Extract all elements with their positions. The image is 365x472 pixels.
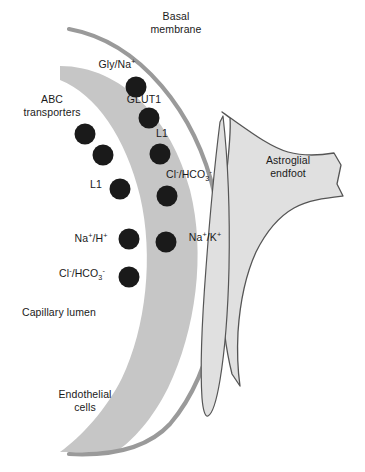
label-abc-transporters: ABC transporters — [6, 93, 98, 118]
na-k-text: Na+/K+ — [189, 231, 221, 243]
transporter-dot-l1-upper — [150, 144, 171, 165]
label-cl-hco3-upper: Cl-/HCO3- — [146, 168, 232, 181]
label-astroglial-endfoot: Astroglial endfoot — [250, 154, 326, 179]
transporter-dot-cl-hco3-lower — [119, 267, 140, 288]
label-na-k: Na+/K+ — [172, 231, 238, 244]
basal-membrane-line1: Basal — [163, 10, 190, 22]
label-capillary-lumen: Capillary lumen — [22, 306, 132, 319]
na-h-text: Na+/H+ — [75, 232, 108, 244]
label-l1-lower: L1 — [72, 178, 120, 191]
endothelial-line2: cells — [74, 401, 96, 413]
label-na-h: Na+/H+ — [62, 232, 120, 245]
basal-membrane-line2: membrane — [151, 23, 202, 35]
label-glut1: GLUT1 — [104, 93, 184, 106]
transporter-dot-glut1 — [139, 108, 160, 129]
glut1-text: GLUT1 — [127, 93, 161, 105]
astroglial-line2: endfoot — [270, 167, 306, 179]
transporter-dot-na-h — [119, 229, 140, 250]
label-endothelial-cells: Endothelial cells — [42, 388, 128, 413]
abc-line1: ABC — [41, 93, 63, 105]
l1-upper-text: L1 — [156, 127, 168, 139]
blood-brain-barrier-diagram: Basal membrane Gly/Na+ ABC transporters … — [0, 0, 365, 472]
endothelial-line1: Endothelial — [58, 388, 111, 400]
transporter-dot-abc — [75, 124, 96, 145]
transporter-dot-abc-second — [93, 145, 114, 166]
label-cl-hco3-lower: Cl-/HCO3- — [44, 267, 120, 280]
label-basal-membrane: Basal membrane — [124, 10, 228, 35]
label-l1-upper: L1 — [132, 127, 192, 140]
l1-lower-text: L1 — [90, 178, 102, 190]
transporter-dot-cl-hco3-upper — [157, 186, 178, 207]
abc-line2: transporters — [23, 106, 80, 118]
label-gly-na: Gly/Na+ — [72, 58, 162, 71]
cl-hco3-lower-text: Cl-/HCO3- — [59, 267, 105, 279]
capillary-lumen-text: Capillary lumen — [22, 306, 96, 318]
astroglial-line1: Astroglial — [266, 154, 310, 166]
cl-hco3-upper-text: Cl-/HCO3- — [166, 168, 212, 180]
gly-na-text: Gly/Na+ — [98, 58, 135, 70]
